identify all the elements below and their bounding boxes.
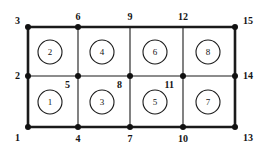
element-label-8: 8	[198, 48, 218, 57]
element-label-5: 5	[145, 98, 165, 107]
element-label-6: 6	[145, 48, 165, 57]
element-label-3: 3	[92, 98, 112, 107]
node-label-10: 10	[171, 134, 195, 144]
node-dot-2	[25, 73, 31, 79]
node-dot-6	[75, 24, 81, 30]
node-label-6: 6	[66, 12, 90, 22]
node-label-15: 15	[243, 16, 253, 26]
node-dot-8	[127, 73, 133, 79]
node-dot-14	[232, 73, 238, 79]
element-label-7: 7	[198, 98, 218, 107]
node-dot-7	[127, 124, 133, 130]
node-dot-13	[232, 124, 238, 130]
node-dot-4	[75, 124, 81, 130]
node-label-9: 9	[118, 12, 142, 22]
element-label-2: 2	[40, 48, 60, 57]
node-label-7: 7	[118, 134, 142, 144]
node-dot-10	[180, 124, 186, 130]
element-label-1: 1	[40, 98, 60, 107]
node-label-5: 5	[46, 80, 70, 90]
node-label-3: 3	[0, 16, 20, 26]
node-label-8: 8	[98, 80, 122, 90]
node-dot-3	[25, 24, 31, 30]
node-label-4: 4	[66, 134, 90, 144]
node-dot-5	[75, 73, 81, 79]
element-label-4: 4	[92, 48, 112, 57]
mesh-diagram-figure: 123456789101112131415 12345678	[0, 0, 261, 153]
node-label-14: 14	[243, 71, 253, 81]
node-dot-11	[180, 73, 186, 79]
node-label-1: 1	[0, 133, 20, 143]
node-dot-1	[25, 124, 31, 130]
node-label-13: 13	[243, 133, 253, 143]
node-label-11: 11	[150, 80, 174, 90]
node-dot-15	[232, 24, 238, 30]
node-label-12: 12	[171, 12, 195, 22]
node-label-2: 2	[0, 71, 20, 81]
mesh-svg-canvas	[0, 0, 261, 153]
